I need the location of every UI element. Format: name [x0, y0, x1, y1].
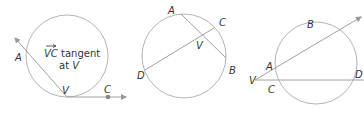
label-a: A [265, 61, 273, 72]
annotation-line-1: VC tangent [44, 48, 100, 59]
label-b: B [229, 65, 236, 76]
annotation-v: V [72, 60, 80, 71]
label-c: C [104, 84, 111, 95]
label-v: V [249, 75, 257, 86]
annotation-at: at [59, 60, 72, 71]
figure-two-chords: A C V D B [137, 5, 236, 98]
figure-two-secants: A B V C D [249, 17, 364, 104]
annotation-line-2: at V [59, 60, 80, 71]
label-b: B [307, 19, 314, 30]
label-v: V [196, 40, 204, 51]
tangent-annotation: VC tangent at V [44, 45, 100, 72]
circle-2 [142, 14, 226, 98]
label-c: C [268, 84, 275, 95]
label-c: C [219, 17, 226, 28]
label-a: A [167, 5, 175, 16]
label-d: D [137, 70, 145, 81]
point-c [106, 95, 111, 100]
annotation-tangent: tangent [58, 48, 100, 59]
figure-tangent-secant: A V C VC tangent at V [14, 15, 126, 99]
chord-cd [145, 28, 214, 70]
circle-diagrams: A V C VC tangent at V A C V D B A B V C … [0, 0, 364, 115]
circle-3 [275, 22, 357, 104]
vector-name: VC [44, 48, 58, 59]
label-d: D [355, 69, 363, 80]
label-a: A [14, 52, 22, 63]
label-v: V [62, 85, 70, 96]
